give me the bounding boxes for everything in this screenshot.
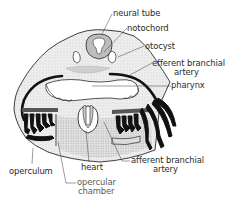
heart-outer (78, 106, 98, 133)
cross-section-diagram: neural tube notochord otocyst efferent b… (0, 0, 232, 205)
label-efferent-artery: artery (174, 68, 199, 77)
label-operculum: operculum (9, 167, 53, 176)
label-neural-tube: neural tube (113, 9, 160, 18)
otocyst-right (108, 52, 116, 64)
label-heart: heart (81, 163, 103, 172)
label-otocyst: otocyst (145, 42, 175, 51)
label-chamber: chamber (78, 187, 114, 196)
pharynx-cavity (46, 80, 139, 101)
label-pharynx: pharynx (171, 81, 205, 90)
leader-operculum (32, 148, 33, 164)
label-afferent-artery: artery (153, 165, 178, 174)
label-notochord: notochord (127, 24, 169, 33)
